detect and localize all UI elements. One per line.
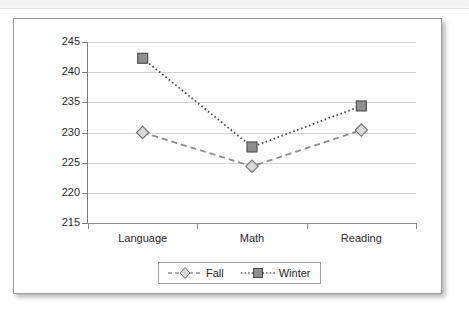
x-axis-tick — [307, 224, 308, 229]
y-axis-tick-label: 220 — [40, 187, 80, 198]
y-axis-tick-label: 240 — [40, 66, 80, 77]
data-point-fall-math — [246, 160, 258, 172]
plot-area — [88, 42, 416, 223]
y-axis-tick-label: 215 — [40, 217, 80, 228]
y-axis-tick-label: 245 — [40, 36, 80, 47]
data-point-winter-language — [138, 53, 148, 63]
top-band-edge — [0, 8, 469, 9]
y-axis-tick — [82, 163, 87, 164]
x-axis-tick-label: Language — [88, 232, 197, 245]
legend-item-winter: Winter — [241, 266, 311, 280]
chart-legend: Fall Winter — [158, 262, 321, 284]
x-axis-tick — [416, 224, 417, 229]
x-axis-tick-label: Reading — [307, 232, 416, 245]
legend-item-fall: Fall — [168, 266, 224, 280]
data-point-fall-language — [136, 126, 148, 138]
x-axis-tick — [197, 224, 198, 229]
legend-key-winter-icon — [241, 266, 275, 280]
y-axis-tick — [82, 102, 87, 103]
y-axis-labels: 245 240 235 230 225 220 215 — [32, 19, 80, 249]
y-axis-tick-label: 225 — [40, 157, 80, 168]
legend-label-fall: Fall — [206, 267, 224, 279]
y-axis-tick — [82, 72, 87, 73]
x-axis-tick-label: Math — [197, 232, 306, 245]
series-layer — [88, 42, 416, 223]
x-axis-tick — [88, 224, 89, 229]
data-point-fall-reading — [355, 124, 367, 136]
y-axis-tick — [82, 133, 87, 134]
y-axis-tick — [82, 193, 87, 194]
chart-panel: 245 240 235 230 225 220 215 LanguageMath… — [13, 18, 442, 294]
x-axis-line — [88, 223, 417, 224]
data-point-winter-math — [247, 142, 257, 152]
y-axis-tick — [82, 223, 87, 224]
y-axis-tick-label: 230 — [40, 127, 80, 138]
data-point-winter-reading — [356, 101, 366, 111]
legend-key-fall-icon — [168, 266, 202, 280]
y-axis-tick-label: 235 — [40, 96, 80, 107]
y-axis-tick — [82, 42, 87, 43]
series-line-winter — [143, 58, 362, 147]
legend-label-winter: Winter — [279, 267, 311, 279]
